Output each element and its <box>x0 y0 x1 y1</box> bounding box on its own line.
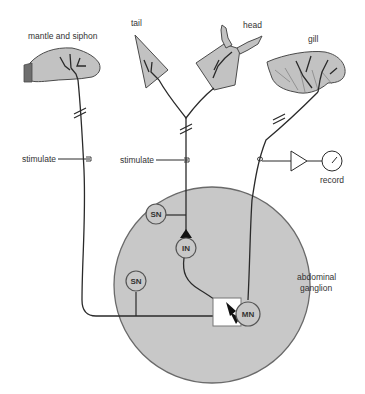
stimulate-label-middle: stimulate <box>120 155 154 165</box>
head-organ <box>196 25 262 90</box>
stimulate-electrode-middle: stimulate <box>120 155 189 165</box>
amplifier-icon <box>291 151 307 171</box>
svg-text:SN: SN <box>150 210 161 219</box>
gill-label: gill <box>308 34 319 44</box>
stimulate-label-left: stimulate <box>22 154 56 164</box>
tail-organ <box>135 35 168 88</box>
motor-neuron: MN <box>236 302 260 326</box>
record-label: record <box>320 175 344 185</box>
svg-text:MN: MN <box>242 310 255 319</box>
mantle-siphon-label: mantle and siphon <box>28 31 98 41</box>
tail-label: tail <box>131 18 142 28</box>
head-label: head <box>243 20 262 30</box>
mantle-siphon-organ <box>24 48 100 82</box>
aplysia-reflex-diagram: stimulate stimulate record mantle and si… <box>0 0 365 394</box>
recording-apparatus: record <box>258 151 345 185</box>
stimulate-electrode-left: stimulate <box>22 154 91 164</box>
ganglion-label-line1: abdominal <box>297 272 336 282</box>
gill-organ <box>267 51 345 93</box>
svg-text:SN: SN <box>130 277 141 286</box>
ganglion-label-line2: ganglion <box>300 283 332 293</box>
svg-text:IN: IN <box>182 244 190 253</box>
meter-icon <box>322 151 342 171</box>
